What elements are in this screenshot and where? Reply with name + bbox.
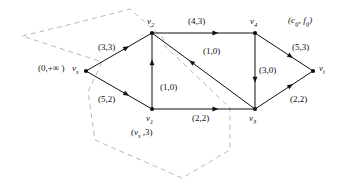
edge-label-vs-v2: (3,3) (98, 43, 115, 52)
node-v1 (150, 107, 154, 111)
capacity-flow-legend: (cij, fij) (288, 16, 312, 27)
node-layer (84, 31, 315, 111)
edge-vs-v2 (86, 33, 152, 71)
edge-v3-v2 (152, 33, 255, 109)
network-flow-figure: vs v2 v4 v1 v3 vt (3,3) (5,2) (4,3) (1,0… (0, 0, 338, 179)
node-label-v2: v2 (147, 17, 154, 28)
node-label-v1: v1 (146, 114, 153, 125)
node-vt (311, 69, 315, 73)
node-label-v3: v3 (249, 114, 256, 125)
arrowhead-v1-v3 (212, 107, 218, 112)
node-v3 (253, 107, 257, 111)
node-v2 (150, 31, 154, 35)
edge-label-v4-vt: (5,3) (292, 43, 309, 52)
edge-label-v2-v4: (4,3) (188, 17, 205, 26)
edge-label-vs-v1: (5,2) (98, 95, 115, 104)
edge-label-v1-v3: (2,2) (192, 114, 209, 123)
arrowhead-vs-v2 (123, 44, 131, 51)
edge-label-v1-v2: (1,0) (160, 83, 177, 92)
node-v4 (253, 31, 257, 35)
arrowhead-v4-v3 (253, 77, 258, 83)
source-potential-label: (0,+∞ ) (38, 64, 65, 73)
arrowhead-vs-v1 (123, 91, 131, 98)
edge-label-v3-v2: (1,0) (203, 47, 220, 56)
arrowhead-v1-v2 (150, 59, 155, 65)
edge-label-v3-vt: (2,2) (290, 95, 307, 104)
node-label-v4: v4 (250, 17, 257, 28)
node-vs (84, 69, 88, 73)
node-label-vt: vt (319, 64, 325, 75)
arrowhead-v4-vt (287, 53, 295, 60)
edge-vs-v1 (86, 71, 152, 109)
arrowhead-v3-vt (287, 82, 295, 89)
arrowhead-v2-v4 (212, 31, 218, 36)
v1-label-mark: (vs ,3) (131, 128, 153, 139)
node-label-vs: vs (72, 64, 79, 75)
edge-layer (86, 33, 313, 109)
edge-label-v4-v3: (3,0) (259, 66, 276, 75)
